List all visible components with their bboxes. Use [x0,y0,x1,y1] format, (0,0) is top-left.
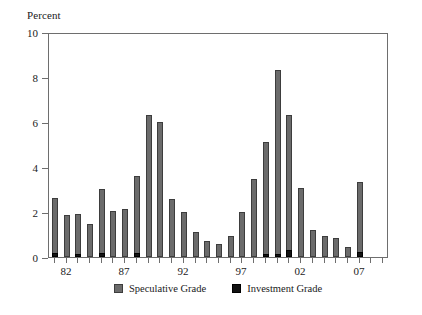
bar-group [169,199,175,258]
bar-speculative-grade [204,241,210,257]
x-axis-tick [159,258,160,263]
bar-speculative-grade [333,238,339,257]
bar-speculative-grade [239,212,245,257]
y-axis-tick [42,33,48,34]
bar-speculative-grade [99,189,105,257]
bar-investment-grade [286,250,292,257]
x-axis-tick [171,258,172,263]
x-axis-tick [136,258,137,263]
legend-entry: Investment Grade [232,283,322,294]
bar-group [216,244,222,258]
x-axis-tick [370,258,371,263]
x-axis-tick [206,258,207,263]
bar-group [52,198,58,257]
plot-area [48,33,388,258]
bar-speculative-grade [228,236,234,257]
bar-speculative-grade [357,182,363,257]
x-axis-tick [195,258,196,263]
x-axis-tick [230,258,231,263]
bar-group [275,70,281,257]
y-axis-tick [42,123,48,124]
bar-group [181,212,187,257]
x-axis-tick [101,258,102,263]
bar-group [134,176,140,257]
bar-investment-grade [134,253,140,257]
x-axis-tick [89,258,90,263]
x-axis-tick [359,258,360,263]
black-square-swatch [232,284,241,293]
y-axis-tick-label: 0 [14,253,38,264]
bar-speculative-grade [275,70,281,257]
bar-speculative-grade [298,188,304,257]
bar-group [157,122,163,257]
chart-legend: Speculative GradeInvestment Grade [48,283,388,294]
bar-speculative-grade [64,215,70,257]
x-axis-tick [112,258,113,263]
x-axis-tick [66,258,67,263]
y-axis-tick [42,213,48,214]
bar-group [193,232,199,257]
bar-speculative-grade [286,115,292,257]
bar-investment-grade [357,252,363,257]
bar-investment-grade [275,254,281,257]
y-axis-tick-label: 6 [14,118,38,129]
bar-group [204,241,210,257]
x-axis-tick [277,258,278,263]
bar-group [333,238,339,257]
bar-group [99,189,105,257]
x-axis-tick [324,258,325,263]
y-axis-tick-label: 10 [14,28,38,39]
x-axis-tick [265,258,266,263]
bar-group [322,236,328,257]
bar-speculative-grade [110,211,116,257]
x-axis-tick [253,258,254,263]
y-axis-title: Percent [27,9,61,22]
bar-group [110,211,116,257]
bar-speculative-grade [169,199,175,258]
bar-speculative-grade [87,224,93,257]
bar-group [64,215,70,257]
bar-group [298,188,304,257]
x-axis-tick-label: 02 [285,265,315,277]
bar-speculative-grade [251,179,257,257]
bar-group [146,115,152,257]
bar-investment-grade [75,254,81,257]
bar-group [263,142,269,257]
bar-group [239,212,245,257]
x-axis-tick [241,258,242,263]
x-axis-tick [183,258,184,263]
bar-investment-grade [99,253,105,257]
x-axis-tick-label: 92 [168,265,198,277]
x-axis-tick [335,258,336,263]
bar-group [75,214,81,257]
bar-group [122,209,128,257]
y-axis-tick [42,168,48,169]
bar-group [87,224,93,257]
bar-group [228,236,234,257]
y-axis-tick-label: 8 [14,73,38,84]
bar-speculative-grade [181,212,187,257]
gray-square-swatch [114,284,123,293]
x-axis-tick [124,258,125,263]
y-axis-tick-label: 2 [14,208,38,219]
bar-group [357,182,363,257]
x-axis-tick [54,258,55,263]
bar-speculative-grade [345,247,351,257]
bar-speculative-grade [322,236,328,257]
bar-speculative-grade [52,198,58,257]
bar-group [251,179,257,257]
x-axis-tick [218,258,219,263]
x-axis-tick [382,258,383,263]
bar-group [310,230,316,257]
bar-group [286,115,292,257]
bar-speculative-grade [157,122,163,257]
bar-investment-grade [263,254,269,257]
x-axis-tick [312,258,313,263]
bar-speculative-grade [134,176,140,257]
y-axis-tick [42,78,48,79]
bar-investment-grade [52,253,58,257]
x-axis-tick [288,258,289,263]
bar-speculative-grade [263,142,269,257]
x-axis-tick-label: 97 [226,265,256,277]
bar-group [345,247,351,257]
